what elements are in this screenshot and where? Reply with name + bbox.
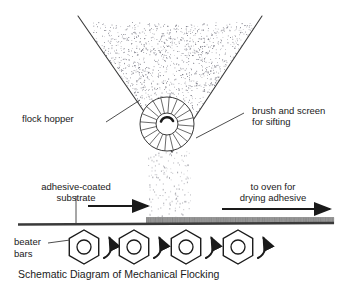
beater-bars-leader-line bbox=[48, 240, 70, 243]
label-beater-bars-line2: bars bbox=[14, 248, 32, 260]
brush-screen-leader-line bbox=[196, 113, 244, 138]
label-adhesive-substrate-line1: adhesive-coated bbox=[16, 181, 136, 193]
beater-bar-shaft bbox=[127, 240, 141, 254]
label-flock-hopper: flock hopper bbox=[22, 113, 74, 125]
beater-bar-rotation-arrow-icon bbox=[206, 238, 213, 258]
flock-hopper-leader-line bbox=[106, 100, 140, 122]
beater-bar-shaft bbox=[179, 240, 193, 254]
beater-bar-shaft bbox=[231, 240, 245, 254]
brush-and-screen-roller bbox=[140, 97, 194, 151]
beater-bar-rotation-arrow-icon bbox=[104, 238, 111, 258]
beater-bars bbox=[69, 230, 265, 264]
label-adhesive-substrate-line2: substrate bbox=[16, 192, 136, 204]
beater-bar-rotation-arrow-icon bbox=[258, 238, 265, 258]
beater-bar-shaft bbox=[77, 240, 91, 254]
label-to-oven-line2: drying adhesive bbox=[213, 192, 333, 204]
beater-bar-rotation-arrow-icon bbox=[154, 238, 161, 258]
label-to-oven-line1: to oven for bbox=[213, 181, 333, 193]
falling-flock-particles bbox=[148, 151, 191, 221]
figure-caption: Schematic Diagram of Mechanical Flocking bbox=[18, 268, 219, 281]
label-brush-and-screen-line1: brush and screen bbox=[252, 105, 325, 117]
label-brush-and-screen-line2: for sifting bbox=[252, 116, 291, 128]
flocking-schematic-figure: flock hopper brush and screen for siftin… bbox=[0, 0, 346, 292]
substrate-web bbox=[18, 223, 334, 225]
label-beater-bars-line1: beater bbox=[14, 236, 41, 248]
schematic-diagram-canvas bbox=[0, 0, 346, 292]
